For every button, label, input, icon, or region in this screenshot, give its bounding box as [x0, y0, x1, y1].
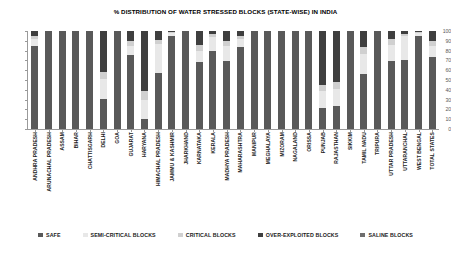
bar-column[interactable]: [384, 31, 398, 129]
stacked-bar[interactable]: [360, 31, 367, 129]
stacked-bar[interactable]: [264, 31, 271, 129]
stacked-bar[interactable]: [223, 31, 230, 129]
bar-segment[interactable]: [278, 31, 285, 129]
bar-segment[interactable]: [127, 46, 134, 55]
bar-column[interactable]: [151, 31, 165, 129]
bar-segment[interactable]: [429, 46, 436, 58]
bar-column[interactable]: [83, 31, 97, 129]
stacked-bar[interactable]: [72, 31, 79, 129]
bar-segment[interactable]: [333, 82, 340, 89]
bar-segment[interactable]: [333, 106, 340, 129]
bar-column[interactable]: [55, 31, 69, 129]
bar-column[interactable]: [316, 31, 330, 129]
stacked-bar[interactable]: [155, 31, 162, 129]
bar-column[interactable]: [42, 31, 56, 129]
bar-segment[interactable]: [59, 31, 66, 129]
bar-segment[interactable]: [196, 31, 203, 45]
bar-segment[interactable]: [415, 36, 422, 129]
bar-segment[interactable]: [237, 47, 244, 129]
bar-column[interactable]: [97, 31, 111, 129]
bar-segment[interactable]: [360, 74, 367, 129]
bar-segment[interactable]: [360, 54, 367, 75]
stacked-bar[interactable]: [127, 31, 134, 129]
bar-column[interactable]: [302, 31, 316, 129]
bar-column[interactable]: [247, 31, 261, 129]
bar-segment[interactable]: [141, 100, 148, 120]
bar-segment[interactable]: [155, 73, 162, 129]
bar-column[interactable]: [398, 31, 412, 129]
bar-segment[interactable]: [333, 89, 340, 107]
bar-segment[interactable]: [319, 91, 326, 109]
bar-segment[interactable]: [196, 51, 203, 63]
stacked-bar[interactable]: [333, 31, 340, 129]
stacked-bar[interactable]: [388, 31, 395, 129]
bar-segment[interactable]: [319, 108, 326, 129]
stacked-bar[interactable]: [429, 31, 436, 129]
bar-segment[interactable]: [223, 61, 230, 129]
bar-column[interactable]: [261, 31, 275, 129]
bar-segment[interactable]: [127, 31, 134, 41]
bar-column[interactable]: [110, 31, 124, 129]
bar-segment[interactable]: [168, 36, 175, 129]
bar-segment[interactable]: [237, 39, 244, 47]
bar-segment[interactable]: [360, 31, 367, 47]
legend-item[interactable]: SEMI-CRITICAL BLOCKS: [83, 232, 156, 238]
bar-segment[interactable]: [388, 61, 395, 129]
bar-column[interactable]: [343, 31, 357, 129]
bar-segment[interactable]: [100, 99, 107, 129]
bar-column[interactable]: [220, 31, 234, 129]
bar-column[interactable]: [28, 31, 42, 129]
bar-segment[interactable]: [401, 36, 408, 61]
bar-column[interactable]: [124, 31, 138, 129]
bar-segment[interactable]: [305, 31, 312, 129]
stacked-bar[interactable]: [415, 31, 422, 129]
stacked-bar[interactable]: [347, 31, 354, 129]
stacked-bar[interactable]: [292, 31, 299, 129]
bar-segment[interactable]: [388, 45, 395, 62]
bar-segment[interactable]: [374, 31, 381, 129]
bar-segment[interactable]: [333, 31, 340, 82]
bar-segment[interactable]: [72, 31, 79, 129]
stacked-bar[interactable]: [59, 31, 66, 129]
bar-segment[interactable]: [114, 31, 121, 129]
bar-segment[interactable]: [264, 31, 271, 129]
bar-column[interactable]: [357, 31, 371, 129]
bar-segment[interactable]: [86, 31, 93, 129]
bar-segment[interactable]: [292, 31, 299, 129]
bar-column[interactable]: [165, 31, 179, 129]
bar-column[interactable]: [192, 31, 206, 129]
stacked-bar[interactable]: [196, 31, 203, 129]
stacked-bar[interactable]: [141, 31, 148, 129]
bar-segment[interactable]: [388, 31, 395, 39]
bar-segment[interactable]: [429, 31, 436, 41]
bar-segment[interactable]: [31, 46, 38, 129]
bar-column[interactable]: [234, 31, 248, 129]
stacked-bar[interactable]: [237, 31, 244, 129]
stacked-bar[interactable]: [401, 31, 408, 129]
bar-segment[interactable]: [155, 31, 162, 40]
bar-column[interactable]: [275, 31, 289, 129]
bar-segment[interactable]: [401, 60, 408, 129]
bar-segment[interactable]: [141, 91, 148, 100]
bar-segment[interactable]: [45, 31, 52, 129]
bar-column[interactable]: [329, 31, 343, 129]
stacked-bar[interactable]: [374, 31, 381, 129]
bar-segment[interactable]: [127, 55, 134, 129]
bar-column[interactable]: [425, 31, 439, 129]
stacked-bar[interactable]: [45, 31, 52, 129]
bar-segment[interactable]: [155, 44, 162, 73]
bar-column[interactable]: [371, 31, 385, 129]
bar-column[interactable]: [288, 31, 302, 129]
bar-segment[interactable]: [100, 79, 107, 99]
bar-segment[interactable]: [100, 72, 107, 79]
bar-segment[interactable]: [141, 31, 148, 91]
stacked-bar[interactable]: [31, 31, 38, 129]
bar-segment[interactable]: [209, 37, 216, 51]
bar-column[interactable]: [69, 31, 83, 129]
legend-item[interactable]: SAFE: [38, 232, 61, 238]
bar-segment[interactable]: [141, 119, 148, 129]
bar-segment[interactable]: [196, 62, 203, 129]
legend-item[interactable]: CRITICAL BLOCKS: [178, 232, 236, 238]
bar-segment[interactable]: [31, 39, 38, 46]
bar-column[interactable]: [206, 31, 220, 129]
